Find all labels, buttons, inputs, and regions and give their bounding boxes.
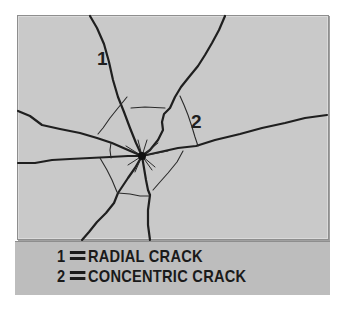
concentric-left — [110, 143, 111, 158]
concentric-lower-left — [100, 158, 117, 192]
concentric-cracks — [98, 96, 198, 196]
concentric-bottom — [118, 193, 150, 196]
concentric-lower-right — [153, 151, 183, 190]
equals-icon — [70, 251, 85, 260]
crack-pattern-figure: 1 2 1RADIAL CRACK 2CONCENTRIC CRACK — [0, 0, 346, 314]
impact-point-icon — [138, 152, 146, 160]
legend-number: 1 — [57, 247, 67, 267]
concentric-upper-left — [98, 97, 127, 134]
legend-label: RADIAL CRACK — [88, 247, 203, 266]
legend-number: 2 — [57, 267, 67, 287]
upper-left-radial — [90, 16, 142, 156]
right-radial — [142, 115, 327, 156]
left-horizontal-radial — [18, 156, 142, 163]
legend-item-radial: 1RADIAL CRACK — [57, 247, 203, 267]
upper-right-radial — [142, 16, 225, 156]
legend: 1RADIAL CRACK 2CONCENTRIC CRACK — [15, 241, 330, 295]
lower-left-radial — [82, 156, 142, 240]
legend-label: CONCENTRIC CRACK — [88, 267, 246, 286]
lower-center-radial — [142, 156, 150, 240]
legend-item-concentric: 2CONCENTRIC CRACK — [57, 267, 246, 287]
left-radial — [18, 111, 142, 156]
concentric-top — [131, 107, 165, 108]
concentric-crack-marker: 2 — [191, 111, 202, 132]
equals-icon — [70, 271, 85, 280]
radial-crack-marker: 1 — [97, 48, 108, 69]
radial-cracks — [18, 16, 327, 240]
